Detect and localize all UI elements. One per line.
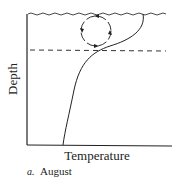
caption-letter: a.	[27, 166, 35, 177]
temperature-profile-curve	[63, 14, 143, 145]
y-axis-label: Depth	[5, 63, 20, 95]
caption-text: August	[40, 165, 72, 177]
water-surface-wave	[28, 13, 166, 15]
x-axis	[27, 145, 172, 146]
x-axis-label: Temperature	[64, 148, 130, 163]
lake-temperature-diagram: Depth Temperature a. August	[0, 0, 179, 178]
circulation-cell-icon	[80, 14, 112, 48]
